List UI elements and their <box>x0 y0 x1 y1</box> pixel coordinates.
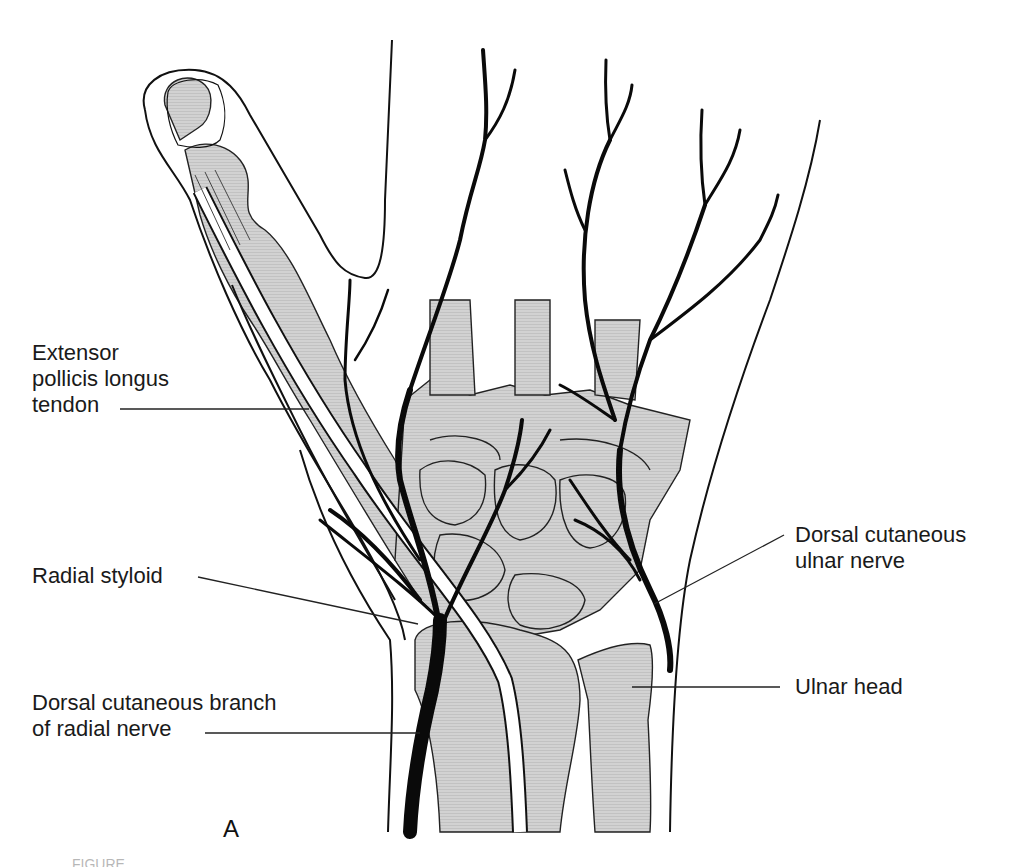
label-dorsal-cutaneous-ulnar-nerve: Dorsal cutaneous ulnar nerve <box>795 522 966 574</box>
label-ulnar-head: Ulnar head <box>795 674 903 700</box>
label-line: Radial styloid <box>32 563 163 589</box>
label-dorsal-cutaneous-branch-radial-nerve: Dorsal cutaneous branch of radial nerve <box>32 690 277 742</box>
label-line: Extensor <box>32 340 169 366</box>
label-line: Dorsal cutaneous branch <box>32 690 277 716</box>
label-line: ulnar nerve <box>795 548 966 574</box>
anatomical-figure: Extensor pollicis longus tendon Radial s… <box>0 0 1032 867</box>
label-line: pollicis longus <box>32 366 169 392</box>
figure-caption: FIGURE <box>72 856 125 867</box>
label-line: of radial nerve <box>32 716 277 742</box>
label-line: Dorsal cutaneous <box>795 522 966 548</box>
label-radial-styloid: Radial styloid <box>32 563 163 589</box>
label-line: tendon <box>32 392 169 418</box>
label-extensor-pollicis-longus-tendon: Extensor pollicis longus tendon <box>32 340 169 418</box>
panel-letter: A <box>223 815 239 843</box>
label-line: Ulnar head <box>795 674 903 700</box>
